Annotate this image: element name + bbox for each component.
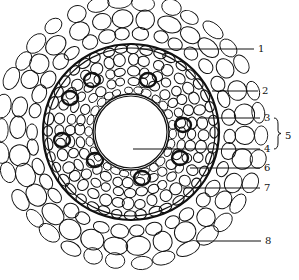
- vascular-cell: [124, 188, 136, 197]
- cortex-cell: [155, 13, 183, 36]
- cortex-cell: [18, 67, 42, 91]
- vascular-cell: [169, 129, 177, 139]
- vascular-cell: [172, 71, 187, 86]
- vascular-cell: [147, 183, 161, 195]
- label-2: 2: [262, 86, 268, 96]
- vascular-cell: [135, 186, 148, 197]
- vascular-cell: [159, 76, 172, 89]
- cortex-cell: [129, 225, 144, 237]
- epidermis-cell: [0, 118, 8, 141]
- vascular-cell: [85, 127, 93, 137]
- cortex-cell: [144, 221, 163, 237]
- vascular-cell: [145, 193, 158, 207]
- epidermis-cell: [58, 238, 83, 260]
- pericycle-cell: [210, 127, 218, 138]
- cortex-cell: [196, 56, 216, 76]
- vascular-cell: [86, 186, 101, 200]
- vascular-cell: [128, 53, 139, 65]
- epidermis-cell: [36, 220, 64, 246]
- epidermis-cell: [239, 170, 261, 195]
- label-6: 6: [264, 163, 270, 173]
- vascular-cell: [137, 55, 150, 67]
- vascular-cell: [56, 147, 70, 162]
- vascular-cell: [156, 179, 168, 191]
- vascular-cell: [194, 139, 207, 154]
- cortex-cell: [66, 19, 92, 44]
- cortex-cell: [22, 180, 51, 210]
- epidermis-cell: [42, 15, 65, 37]
- vascular-cell: [167, 180, 184, 197]
- label-1: 1: [258, 44, 264, 54]
- epidermis-cell: [160, 0, 184, 18]
- cortex-cell: [28, 102, 43, 119]
- cortex-cell: [80, 32, 100, 51]
- cortex-cell: [10, 95, 29, 118]
- vascular-cell: [67, 147, 80, 159]
- epidermis-cell: [0, 93, 13, 120]
- pericycle-cell: [43, 126, 52, 136]
- cortex-cell: [29, 83, 49, 106]
- label-5: 5: [285, 131, 291, 141]
- vascular-cell: [112, 186, 124, 196]
- epidermis-cell: [193, 222, 222, 250]
- epidermis-cell: [200, 17, 227, 42]
- vascular-cell: [124, 87, 132, 94]
- vascular-cell: [106, 79, 118, 91]
- cortex-cell: [126, 236, 151, 256]
- cortex-cell: [181, 44, 200, 62]
- cortex-cell: [152, 29, 169, 45]
- vascular-cell: [79, 103, 92, 116]
- central-vessel: [95, 96, 167, 168]
- label-4: 4: [264, 144, 270, 154]
- vascular-cell: [198, 129, 209, 140]
- vascular-cell: [66, 114, 76, 125]
- vascular-cell: [53, 112, 65, 125]
- cortex-cell: [27, 124, 38, 140]
- epidermis-cell: [131, 256, 153, 271]
- cortex-cell: [235, 126, 255, 145]
- vascular-cell: [75, 136, 85, 148]
- label-8: 8: [265, 236, 271, 246]
- cortex-cell: [97, 28, 117, 45]
- cortex-cell: [220, 141, 237, 160]
- epidermis-cell: [82, 245, 105, 266]
- xylem-vessel: [175, 118, 191, 132]
- epidermis-cell: [107, 0, 132, 9]
- vascular-cell: [128, 77, 140, 86]
- cortex-cell: [114, 27, 130, 40]
- cortex-cell: [194, 34, 222, 61]
- cortex-cell: [26, 138, 39, 156]
- cortex-cell: [92, 220, 111, 235]
- vascular-cell: [115, 77, 125, 87]
- pericycle-cell: [126, 44, 138, 54]
- vascular-cell: [187, 90, 202, 106]
- vascular-cell: [76, 114, 86, 127]
- vascular-cell: [98, 192, 114, 207]
- vascular-cell: [127, 66, 140, 77]
- epidermis-cell: [0, 141, 10, 164]
- vascular-cell: [159, 62, 175, 78]
- xylem-vessel: [62, 91, 78, 105]
- epidermis-cell: [86, 0, 111, 15]
- pericycle-cell: [161, 51, 177, 64]
- cortex-cell: [212, 188, 236, 212]
- cortex-cell: [73, 209, 92, 227]
- cortex-cell: [132, 27, 150, 41]
- cortex-cell: [112, 9, 134, 29]
- cortex-cell: [38, 199, 68, 229]
- vascular-cell: [184, 139, 196, 152]
- root-cross-section-diagram: 12346785: [0, 0, 299, 280]
- cortex-cell: [151, 229, 175, 254]
- vascular-cell: [89, 176, 102, 189]
- epidermis-cell: [216, 36, 240, 61]
- pericycle-cell: [158, 201, 173, 214]
- epidermis-cell: [178, 8, 201, 28]
- label-7: 7: [264, 183, 270, 193]
- vascular-cell: [134, 199, 146, 210]
- cell-drawing: [0, 0, 299, 280]
- vascular-cell: [113, 53, 127, 67]
- label-3: 3: [264, 113, 270, 123]
- vascular-cell: [113, 67, 126, 77]
- epidermis-cell: [0, 65, 23, 92]
- cortex-cell: [45, 186, 64, 206]
